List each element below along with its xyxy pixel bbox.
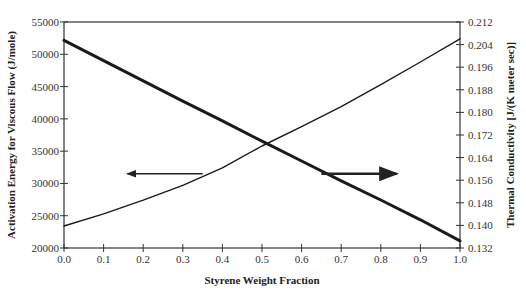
- x-tick-label: 0.8: [374, 253, 388, 265]
- x-tick-label: 0.7: [334, 253, 348, 265]
- y-axis-left-title: Activation Energy for Viscous Flow (J/mo…: [5, 31, 18, 239]
- x-tick-label: 0.9: [414, 253, 428, 265]
- y-left-tick-label: 50000: [32, 48, 60, 60]
- y-right-tick-label: 0.140: [468, 219, 493, 231]
- x-tick-label: 0.4: [216, 253, 230, 265]
- y-left-tick-label: 45000: [32, 81, 60, 93]
- y-left-tick-label: 40000: [32, 113, 60, 125]
- y-right-tick-label: 0.148: [468, 197, 493, 209]
- y-axis-right-ticks: 0.1320.1400.1480.1560.1640.1720.1800.188…: [456, 16, 493, 254]
- activation-energy-line: [64, 39, 460, 226]
- y-right-tick-label: 0.156: [468, 174, 493, 186]
- y-right-tick-label: 0.204: [468, 39, 493, 51]
- y-left-tick-label: 25000: [32, 210, 60, 222]
- x-tick-label: 0.6: [295, 253, 309, 265]
- thermal-conductivity-line: [64, 40, 460, 241]
- x-axis-title: Styrene Weight Fraction: [204, 274, 319, 286]
- x-tick-label: 0.1: [97, 253, 111, 265]
- x-axis-ticks: 0.00.10.20.30.40.50.60.70.80.91.0: [57, 244, 467, 265]
- x-tick-label: 0.2: [136, 253, 150, 265]
- y-right-tick-label: 0.164: [468, 152, 493, 164]
- y-right-tick-label: 0.180: [468, 106, 493, 118]
- y-axis-right-title: Thermal Conductivity [J/(K meter sec)]: [504, 42, 517, 228]
- series-layer: [64, 39, 460, 241]
- x-tick-label: 0.3: [176, 253, 190, 265]
- x-tick-label: 0.0: [57, 253, 71, 265]
- y-right-tick-label: 0.172: [468, 129, 493, 141]
- dual-axis-line-chart: 0.00.10.20.30.40.50.60.70.80.91.0 200002…: [0, 0, 526, 294]
- y-left-tick-label: 30000: [32, 177, 60, 189]
- x-tick-label: 0.5: [255, 253, 269, 265]
- y-right-tick-label: 0.196: [468, 61, 493, 73]
- y-left-tick-label: 55000: [32, 16, 60, 28]
- x-tick-label: 1.0: [453, 253, 467, 265]
- y-right-tick-label: 0.188: [468, 84, 493, 96]
- y-right-tick-label: 0.212: [468, 16, 493, 28]
- plot-frame: [64, 22, 460, 248]
- y-right-tick-label: 0.132: [468, 242, 493, 254]
- y-axis-left-ticks: 2000025000300003500040000450005000055000: [32, 16, 69, 254]
- y-left-tick-label: 35000: [32, 145, 60, 157]
- y-left-tick-label: 20000: [32, 242, 60, 254]
